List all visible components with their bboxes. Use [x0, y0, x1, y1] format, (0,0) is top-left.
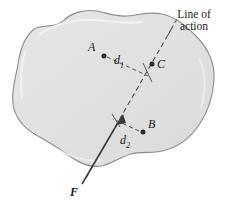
- force-label: F: [70, 186, 78, 199]
- point-c-marker: [150, 62, 155, 67]
- point-b-label: B: [148, 118, 155, 131]
- line-of-action-line2: action: [180, 20, 208, 32]
- point-c-label: C: [157, 58, 165, 71]
- distance-d1-label: d1: [114, 51, 124, 71]
- force-line-of-action-figure: Line of action A C B d1 d2 F: [0, 0, 235, 209]
- point-b-marker: [141, 130, 146, 135]
- point-a-marker: [102, 54, 107, 59]
- line-of-action-line1: Line of: [177, 8, 211, 20]
- distance-d2-label: d2: [120, 131, 130, 151]
- line-of-action-label: Line of action: [160, 8, 228, 32]
- point-a-label: A: [88, 41, 95, 54]
- d1-subscript: 1: [120, 61, 124, 70]
- rigid-body-shape: [13, 10, 215, 166]
- d2-subscript: 2: [126, 141, 130, 150]
